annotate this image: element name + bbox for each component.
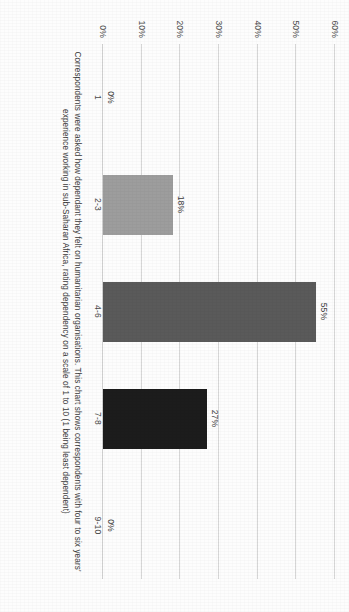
bar xyxy=(103,282,316,342)
x-axis-tick-label: 2-3 xyxy=(93,198,103,211)
plot-area: 0%18%55%27%0% xyxy=(103,44,335,579)
x-axis-tick-label: 9-10 xyxy=(93,517,103,535)
bar-value-label: 0% xyxy=(106,496,116,556)
bar-value-label: 0% xyxy=(106,68,116,128)
y-axis-tick-label: 10% xyxy=(137,20,147,38)
y-axis-tick-label: 0% xyxy=(98,25,108,38)
bar xyxy=(103,389,207,449)
y-axis-tick-label: 60% xyxy=(330,20,340,38)
bar xyxy=(103,175,173,235)
rotated-page-canvas: 0%10%20%30%40%50%60% 0%18%55%27%0% 12-34… xyxy=(0,0,349,612)
chart-caption: Correspondents were asked how dependant … xyxy=(60,44,83,579)
bar-chart-figure: 0%10%20%30%40%50%60% 0%18%55%27%0% 12-34… xyxy=(0,0,349,612)
caption-line-2: experience working in sub-Saharan Africa… xyxy=(60,44,72,579)
y-axis: 0%10%20%30%40%50%60% xyxy=(103,0,335,44)
y-axis-tick-label: 30% xyxy=(214,20,224,38)
x-axis-tick-label: 4-6 xyxy=(93,305,103,318)
bar-fill xyxy=(103,282,316,342)
x-axis-tick-label: 7-8 xyxy=(93,412,103,425)
bar-fill xyxy=(103,389,207,449)
caption-line-1: Correspondents were asked how dependant … xyxy=(73,51,82,571)
bar-value-label: 55% xyxy=(319,282,329,342)
x-axis-tick-label: 1 xyxy=(93,95,103,100)
x-axis: 12-34-67-89-10 xyxy=(87,44,103,579)
y-axis-tick-label: 20% xyxy=(175,20,185,38)
y-axis-tick-label: 40% xyxy=(253,20,263,38)
bar-value-label: 18% xyxy=(176,175,186,235)
bar-value-label: 27% xyxy=(210,389,220,449)
y-axis-tick-label: 50% xyxy=(291,20,301,38)
bar-series: 0%18%55%27%0% xyxy=(103,44,335,579)
bar-fill xyxy=(103,175,173,235)
